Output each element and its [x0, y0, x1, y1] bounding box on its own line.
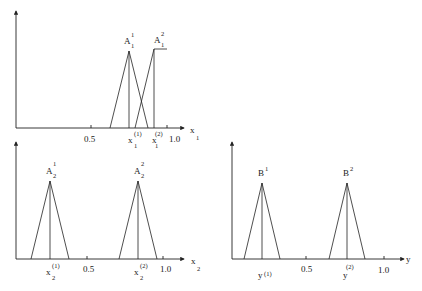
mf-a1-2-sub: 1 [161, 41, 164, 48]
mf-a2-2-label: A [134, 166, 141, 176]
marker-x2-1-sup: (1) [52, 262, 60, 270]
mf-a2-1-sub: 2 [53, 172, 56, 179]
chart-bottom-right: 0.5 1.0 y B 1 B 2 y (1) y (2) [232, 142, 411, 280]
marker-x1-2-sup: (2) [155, 130, 163, 138]
mf-a1-1-label: A [124, 36, 131, 46]
mf-a1-1-sub: 1 [131, 42, 134, 49]
mf-a2-2-sub: 2 [141, 172, 144, 179]
br-tick-label-05: 0.5 [301, 264, 313, 274]
marker-y2-label: y [343, 270, 348, 280]
marker-x1-2-sub: 1 [155, 142, 158, 149]
marker-x2-1-label: x [46, 267, 51, 277]
marker-x1-1-sup: (1) [134, 130, 142, 138]
marker-x2-2-sup: (2) [140, 262, 148, 270]
top-tick-label-10: 1.0 [169, 134, 181, 144]
mf-a1-2-label: A [154, 35, 161, 45]
bl-xaxis-label: x [191, 256, 196, 266]
mf-a2-2-sup: 2 [141, 160, 144, 167]
mf-a2-1-sup: 1 [53, 160, 56, 167]
marker-x2-1-sub: 2 [52, 274, 55, 281]
bl-xaxis-sub: 2 [197, 265, 200, 272]
br-xaxis-label: y [406, 254, 411, 264]
mf-b1-label: B [258, 168, 264, 178]
mf-a1-2-sup: 2 [161, 30, 164, 37]
marker-x2-2-label: x [134, 267, 139, 277]
marker-y2-sup: (2) [346, 263, 354, 271]
br-tick-label-10: 1.0 [378, 265, 390, 275]
mf-a1-2 [135, 49, 167, 128]
membership-function-figure: 0.5 1.0 x 1 A 1 1 A 2 1 x (1) 1 x (2) 1 … [0, 0, 422, 291]
mf-b2-label: B [343, 168, 349, 178]
chart-top: 0.5 1.0 x 1 A 1 1 A 2 1 x (1) 1 x (2) 1 [16, 11, 199, 149]
chart-bottom-left: 0.5 1.0 x 2 A 1 2 A 2 2 x (1) 2 x (2) 2 [16, 142, 200, 281]
mf-b1-sup: 1 [265, 165, 268, 172]
bl-tick-label-10: 1.0 [160, 264, 172, 274]
mf-b2-sup: 2 [350, 165, 353, 172]
bl-tick-label-05: 0.5 [83, 264, 95, 274]
top-xaxis-sub: 1 [196, 134, 199, 141]
marker-x2-2-sub: 2 [140, 274, 143, 281]
top-tick-label-05: 0.5 [84, 134, 96, 144]
mf-a2-1-label: A [46, 166, 53, 176]
marker-y1-label: y [258, 270, 263, 280]
marker-x1-1-label: x [128, 135, 133, 145]
mf-a1-1-sup: 1 [131, 31, 134, 38]
top-xaxis-label: x [190, 125, 195, 135]
marker-x1-1-sub: 1 [134, 142, 137, 149]
marker-y1-sup: (1) [264, 270, 272, 278]
